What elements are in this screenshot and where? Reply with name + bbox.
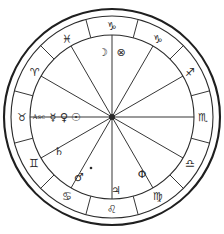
placement-mars: ♂ (74, 171, 84, 184)
placement-phi-point: Φ (138, 168, 147, 181)
placement-sun: ☉ (71, 111, 81, 124)
sign-divider-8 (41, 175, 54, 188)
zodiac-sign-scorpio: ♏ (198, 111, 208, 124)
placement-jupiter: ♃ (111, 184, 121, 197)
sign-divider-5 (41, 46, 54, 59)
zodiac-sign-virgo: ♍ (153, 190, 163, 203)
zodiac-sign-aquarius: ♑ (107, 20, 117, 33)
zodiac-sign-cancer: ♋ (62, 190, 72, 203)
placement-venus: ♀ (60, 111, 68, 124)
sign-divider-11 (170, 175, 183, 188)
placement-moon: ☽ (98, 46, 108, 59)
astrology-chart-wheel: ♑♓♈♉♊♋♌♍♎♏♐♑ ☽⊗Asc☿♀☉♄♂♃Φ (0, 0, 224, 234)
chart-center-hub (109, 114, 115, 120)
zodiac-sign-gemini: ♊ (29, 157, 39, 170)
placement-saturn: ♄ (54, 145, 64, 158)
house-cusp-line-2 (112, 76, 183, 117)
sign-divider-9 (86, 196, 91, 214)
chart-wheel-canvas: ♑♓♈♉♊♋♌♍♎♏♐♑ ☽⊗Asc☿♀☉♄♂♃Φ (0, 0, 224, 234)
zodiac-sign-libra: ♎ (185, 157, 195, 170)
placement-mercury: ☿ (50, 111, 57, 124)
sign-divider-4 (86, 19, 91, 37)
sign-divider-12 (191, 138, 209, 143)
sign-divider-2 (170, 46, 183, 59)
zodiac-sign-leo: ♌ (107, 203, 117, 216)
sign-divider-7 (14, 138, 32, 143)
chart-point-marker (90, 167, 93, 170)
zodiac-sign-aries: ♈ (30, 66, 40, 79)
zodiac-sign-capricorn: ♑ (153, 33, 163, 46)
placement-part-of-fortune: ⊗ (116, 46, 125, 59)
sign-divider-10 (133, 196, 138, 214)
placement-ascendant: Asc (32, 113, 45, 121)
sign-divider-6 (14, 91, 32, 96)
zodiac-sign-taurus: ♉ (17, 111, 27, 124)
planet-placement-labels: ☽⊗Asc☿♀☉♄♂♃Φ (32, 46, 147, 197)
sign-divider-3 (133, 19, 138, 37)
zodiac-sign-pisces: ♓ (62, 33, 72, 46)
house-cusp-line-12 (112, 117, 183, 158)
zodiac-sign-sagittarius: ♐ (185, 66, 195, 79)
sign-divider-1 (191, 91, 209, 96)
house-cusp-line-11 (112, 117, 153, 188)
